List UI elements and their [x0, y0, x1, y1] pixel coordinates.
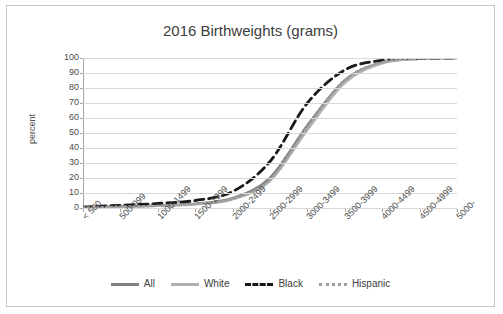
gridline — [83, 118, 457, 119]
gridline — [83, 58, 457, 59]
y-tick-label: 10 — [49, 188, 79, 197]
y-tick-label: 80 — [49, 83, 79, 92]
y-tick-mark — [80, 148, 83, 149]
gridline — [83, 178, 457, 179]
x-tick-mark — [233, 209, 234, 212]
legend-label-all: All — [144, 278, 155, 289]
y-tick-label: 50 — [49, 128, 79, 137]
legend-swatch-hispanic — [319, 279, 347, 289]
y-tick-label: 30 — [49, 158, 79, 167]
x-tick-mark — [83, 209, 84, 212]
y-tick-mark — [80, 163, 83, 164]
legend-label-white: White — [204, 278, 230, 289]
y-tick-mark — [80, 88, 83, 89]
y-tick-label: 90 — [49, 68, 79, 77]
plot-area — [83, 58, 457, 208]
legend-item-all: All — [111, 278, 155, 289]
y-tick-mark — [80, 193, 83, 194]
chart-legend: All White Black Hispanic — [7, 278, 494, 289]
y-tick-mark — [80, 58, 83, 59]
y-tick-mark — [80, 178, 83, 179]
gridline — [83, 148, 457, 149]
x-tick-label: 5000- — [455, 199, 478, 222]
legend-item-white: White — [171, 278, 230, 289]
x-tick-mark — [307, 209, 308, 212]
x-tick-mark — [120, 209, 121, 212]
y-tick-label: 20 — [49, 173, 79, 182]
x-tick-mark — [457, 209, 458, 212]
y-tick-label: 100 — [49, 53, 79, 62]
gridline — [83, 163, 457, 164]
legend-label-black: Black — [278, 278, 302, 289]
gridline — [83, 88, 457, 89]
y-tick-label: 60 — [49, 113, 79, 122]
gridline — [83, 133, 457, 134]
y-tick-mark — [80, 73, 83, 74]
chart-title: 2016 Birthweights (grams) — [7, 22, 494, 39]
legend-swatch-black — [245, 279, 273, 289]
y-tick-mark — [80, 118, 83, 119]
y-tick-label: 40 — [49, 143, 79, 152]
legend-item-black: Black — [245, 278, 302, 289]
x-tick-mark — [420, 209, 421, 212]
y-tick-label: 0 — [49, 203, 79, 212]
y-tick-mark — [80, 103, 83, 104]
x-tick-mark — [195, 209, 196, 212]
legend-swatch-white — [171, 279, 199, 289]
y-axis-title: percent — [27, 94, 37, 164]
legend-swatch-all — [111, 279, 139, 289]
chart-container: 2016 Birthweights (grams) percent 010203… — [6, 5, 495, 307]
legend-item-hispanic: Hispanic — [319, 278, 390, 289]
x-tick-mark — [158, 209, 159, 212]
y-axis-tick-labels: 0102030405060708090100 — [47, 6, 79, 308]
y-tick-mark — [80, 133, 83, 134]
x-tick-mark — [345, 209, 346, 212]
x-tick-mark — [270, 209, 271, 212]
gridline — [83, 73, 457, 74]
gridline — [83, 103, 457, 104]
y-tick-label: 70 — [49, 98, 79, 107]
legend-label-hispanic: Hispanic — [352, 278, 390, 289]
x-tick-mark — [382, 209, 383, 212]
